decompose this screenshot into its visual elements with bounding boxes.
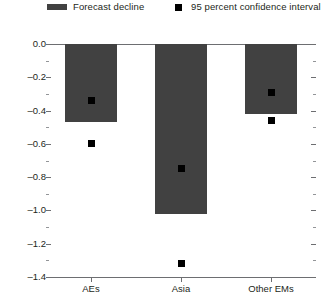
bar-asia (155, 44, 207, 214)
bar-other-ems (245, 44, 297, 114)
y-axis-major-tick-right (311, 44, 316, 45)
y-axis-tick-label: –1.0 (2, 205, 46, 215)
y-axis-minor-tick (46, 260, 49, 261)
y-axis-major-tick-right (311, 111, 316, 112)
y-axis-major-tick (46, 77, 51, 78)
y-axis-major-tick-right (311, 277, 316, 278)
y-axis-major-tick (46, 111, 51, 112)
bar-chart: 0.0–0.2–0.4–0.6–0.8–1.0–1.2–1.4 AEsAsiaO… (0, 0, 324, 297)
y-axis-minor-tick (46, 161, 49, 162)
x-axis-tick (181, 277, 182, 282)
y-axis-minor-tick-right (313, 260, 316, 261)
y-axis-major-tick (46, 177, 51, 178)
ci-marker-aes-upper (88, 97, 95, 104)
x-axis-tick (271, 277, 272, 282)
bar-aes (65, 44, 117, 122)
y-axis-major-tick-right (311, 177, 316, 178)
y-axis-tick-label: 0.0 (2, 39, 46, 49)
y-axis-minor-tick-right (313, 61, 316, 62)
y-axis-minor-tick (46, 227, 49, 228)
ci-marker-aes-lower (88, 140, 95, 147)
y-axis-minor-tick (46, 127, 49, 128)
x-axis-tick (91, 277, 92, 282)
y-axis-minor-tick (46, 94, 49, 95)
y-axis-tick-label: –0.4 (2, 106, 46, 116)
y-axis-tick-label: –0.2 (2, 72, 46, 82)
x-axis-label-asia: Asia (172, 284, 190, 294)
y-axis-minor-tick-right (313, 94, 316, 95)
ci-marker-asia-lower (178, 260, 185, 267)
y-axis-minor-tick-right (313, 227, 316, 228)
y-axis-minor-tick-right (313, 127, 316, 128)
x-axis-label-aes: AEs (82, 284, 99, 294)
y-axis-tick-label: –1.4 (2, 272, 46, 282)
x-axis-label-other-ems: Other EMs (248, 284, 293, 294)
ci-marker-asia-upper (178, 165, 185, 172)
y-axis-tick-label: –1.2 (2, 239, 46, 249)
y-axis-major-tick (46, 277, 51, 278)
y-axis-major-tick-right (311, 210, 316, 211)
y-axis-major-tick (46, 44, 51, 45)
ci-marker-other-ems-upper (268, 89, 275, 96)
y-axis-tick-label: –0.6 (2, 139, 46, 149)
y-axis-minor-tick-right (313, 194, 316, 195)
y-axis-tick-label: –0.8 (2, 172, 46, 182)
y-axis-major-tick-right (311, 144, 316, 145)
y-axis-major-tick (46, 144, 51, 145)
y-axis-minor-tick (46, 194, 49, 195)
y-axis-minor-tick-right (313, 161, 316, 162)
y-axis-minor-tick (46, 61, 49, 62)
y-axis-major-tick (46, 244, 51, 245)
ci-marker-other-ems-lower (268, 117, 275, 124)
y-axis-major-tick-right (311, 244, 316, 245)
y-axis-major-tick (46, 210, 51, 211)
y-axis-major-tick-right (311, 77, 316, 78)
